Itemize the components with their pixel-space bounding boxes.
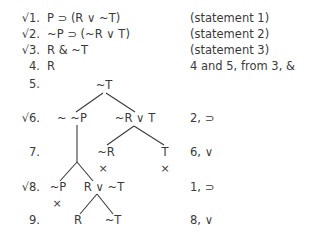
tree-node-line8-right: R ∨ ~T: [84, 180, 124, 194]
tree-node-line7-left: ~R: [97, 145, 115, 159]
tree-node-line6-right: ~R ∨ T: [115, 111, 155, 125]
tree-node-line8-left: ~P: [50, 180, 67, 194]
tree-node-line9-right: ~T: [105, 213, 122, 227]
branch-closed-mark: ×: [98, 162, 107, 176]
tree-node-line7-right: T: [161, 145, 168, 159]
tree-node-line9-left: R: [74, 213, 82, 227]
tree-node-line5: ~T: [96, 78, 113, 92]
tree-node-line6-left: ~ ~P: [57, 111, 87, 125]
truth-tree-branches: [0, 0, 311, 237]
branch-closed-mark: ×: [52, 197, 61, 211]
branch-closed-mark: ×: [160, 162, 169, 176]
